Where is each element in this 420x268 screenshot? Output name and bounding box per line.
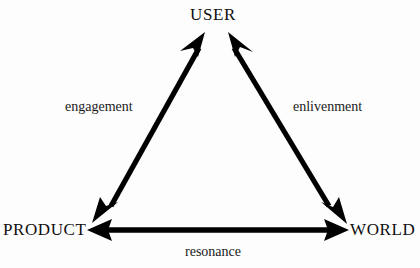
edge-enlivenment-arrowhead-user [228,32,253,57]
edge-engagement-arrow [92,32,205,223]
edge-engagement-shaft [111,48,199,206]
node-label-product: PRODUCT [3,221,87,238]
edge-enlivenment-shaft [234,48,329,206]
edge-label-enlivenment: enlivenment [293,100,362,114]
edge-label-engagement: engagement [65,100,133,114]
diagram-canvas: USER PRODUCT WORLD engagement enlivenmen… [0,0,420,268]
node-label-world: WORLD [350,221,415,238]
edge-enlivenment-arrow [228,32,347,224]
edge-engagement-arrowhead-user [180,32,205,57]
edge-label-resonance: resonance [185,245,241,259]
edge-resonance-arrow [87,219,349,241]
node-label-user: USER [190,6,236,23]
